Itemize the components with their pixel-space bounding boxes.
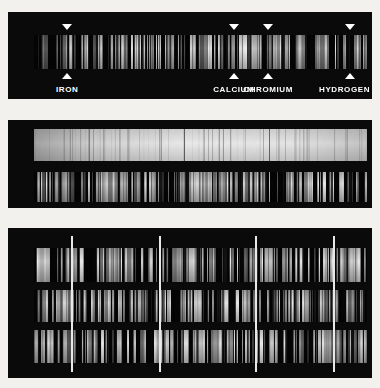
spectrum-strip-reference [34,35,367,69]
panel-three-star-spectra [8,228,372,378]
reference-line-3 [255,236,257,372]
spectrum-strip-star-b [34,290,367,322]
element-label-hydrogen: HYDROGEN [319,85,370,94]
down-arrow-marker-iron [62,24,72,30]
reference-line-2 [159,236,161,372]
element-label-chromium: CHROMIUM [243,85,293,94]
up-arrow-marker-calcium [229,73,239,79]
panel-continuum-and-lines [8,120,372,208]
up-arrow-marker-iron [62,73,72,79]
reference-line-4 [333,236,335,372]
up-arrow-marker-hydrogen [345,73,355,79]
element-label-iron: IRON [56,85,78,94]
panel-reference-spectrum: IRONCALCIUMCHROMIUMHYDROGEN [8,12,372,99]
spectrum-strip-star-c [34,330,367,363]
spectrum-strip-star-a [34,248,367,282]
figure-page: IRONCALCIUMCHROMIUMHYDROGEN [0,0,380,388]
down-arrow-marker-calcium [229,24,239,30]
down-arrow-marker-chromium [263,24,273,30]
spectrum-strip-emission [34,172,367,202]
down-arrow-marker-hydrogen [345,24,355,30]
reference-line-1 [71,236,73,372]
spectrum-strip-continuum [34,129,367,161]
up-arrow-marker-chromium [263,73,273,79]
